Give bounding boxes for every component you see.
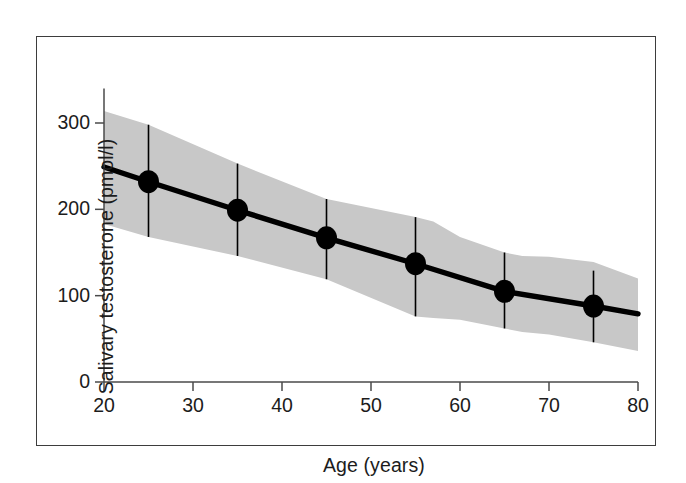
y-axis-tick-label: 100 [38,284,90,307]
x-axis-tick-label: 40 [257,394,307,417]
data-point-marker [227,199,248,222]
x-axis-ticks-group [104,382,638,391]
y-axis-tick-label: 300 [38,111,90,134]
x-axis-tick-label: 80 [613,394,663,417]
y-axis-tick-label: 200 [38,197,90,220]
data-point-marker [583,295,604,318]
x-axis-tick-label: 50 [346,394,396,417]
data-point-marker [405,252,426,275]
chart-plot-area [37,37,657,447]
figure-border-frame: 010020030020304050607080 Salivary testos… [36,36,656,446]
x-axis-tick-label: 70 [524,394,574,417]
y-axis-title: Salivary testosterone (pmol/l) [95,139,118,395]
data-point-marker [138,170,159,193]
x-axis-tick-label: 30 [168,394,218,417]
figure-root: 010020030020304050607080 Salivary testos… [0,0,686,483]
x-axis-tick-label: 60 [435,394,485,417]
x-axis-title: Age (years) [323,454,425,477]
x-axis-tick-label: 20 [79,394,129,417]
y-axis-tick-label: 0 [38,370,90,393]
data-point-marker [316,226,337,249]
data-point-marker [494,280,515,303]
reference-band-shaded-area [104,111,638,351]
